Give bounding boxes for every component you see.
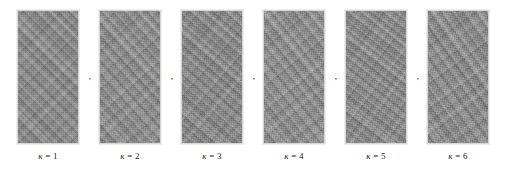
panel-separator-2: ,: [171, 72, 173, 81]
crosshatch-texture-1: [17, 10, 79, 144]
texture-image-5[interactable]: [345, 10, 407, 144]
texture-grain-layer: [345, 10, 407, 144]
figure-root: κ = 1 , κ = 2 ,: [0, 0, 512, 175]
kappa-relation-4: =: [289, 151, 299, 161]
texture-grain-layer: [181, 10, 243, 144]
kappa-value-2: 2: [135, 151, 140, 161]
kappa-relation-2: =: [125, 151, 135, 161]
kappa-value-1: 1: [53, 151, 58, 161]
texture-image-6[interactable]: [427, 10, 489, 144]
crosshatch-texture-5: [345, 10, 407, 144]
panel-separator-4: ,: [335, 72, 337, 81]
panel-separator-5: ,: [417, 72, 419, 81]
kappa-relation-6: =: [453, 151, 463, 161]
panel-caption-3: κ = 3: [202, 150, 221, 162]
texture-panel-3[interactable]: κ = 3 ,: [178, 0, 246, 162]
panel-caption-5: κ = 5: [366, 150, 385, 162]
texture-image-1[interactable]: [17, 10, 79, 144]
kappa-relation-5: =: [371, 151, 381, 161]
crosshatch-texture-2: [99, 10, 161, 144]
kappa-value-4: 4: [299, 151, 304, 161]
kappa-relation-3: =: [207, 151, 217, 161]
crosshatch-texture-3: [181, 10, 243, 144]
texture-panel-6[interactable]: κ = 6: [424, 0, 492, 162]
texture-grain-layer: [99, 10, 161, 144]
texture-panel-5[interactable]: κ = 5 ,: [342, 0, 410, 162]
crosshatch-texture-6: [427, 10, 489, 144]
texture-image-4[interactable]: [263, 10, 325, 144]
texture-panel-2[interactable]: κ = 2 ,: [96, 0, 164, 162]
panel-separator-1: ,: [89, 72, 91, 81]
texture-image-2[interactable]: [99, 10, 161, 144]
texture-grain-layer: [427, 10, 489, 144]
panel-caption-1: κ = 1: [38, 150, 57, 162]
texture-panel-row: κ = 1 , κ = 2 ,: [0, 0, 512, 175]
texture-grain-layer: [17, 10, 79, 144]
kappa-value-3: 3: [217, 151, 222, 161]
texture-panel-1[interactable]: κ = 1 ,: [14, 0, 82, 162]
kappa-relation-1: =: [43, 151, 53, 161]
crosshatch-texture-4: [263, 10, 325, 144]
kappa-value-6: 6: [463, 151, 468, 161]
panel-separator-3: ,: [253, 72, 255, 81]
panel-caption-6: κ = 6: [448, 150, 467, 162]
texture-panel-4[interactable]: κ = 4 ,: [260, 0, 328, 162]
kappa-value-5: 5: [381, 151, 386, 161]
texture-grain-layer: [263, 10, 325, 144]
texture-image-3[interactable]: [181, 10, 243, 144]
panel-caption-4: κ = 4: [284, 150, 303, 162]
panel-caption-2: κ = 2: [120, 150, 139, 162]
